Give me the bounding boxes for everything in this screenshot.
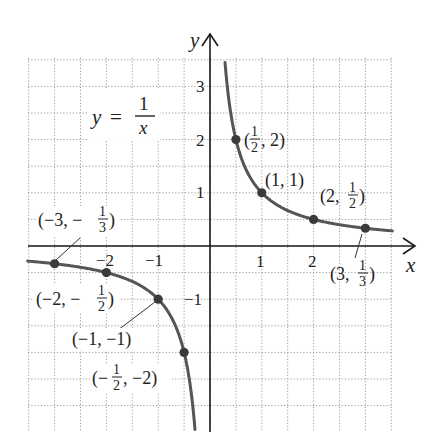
point-label-2-half: (2, 1 2 ) (320, 180, 365, 211)
point-label-neg3-negthird: (−3, − 1 3 ) (36, 204, 120, 236)
svg-text:(: ( (244, 130, 250, 151)
svg-text:1: 1 (98, 283, 105, 298)
svg-text:, 2): , 2) (261, 130, 285, 151)
svg-text:3: 3 (359, 274, 366, 289)
x-tick-neg1: −1 (145, 251, 163, 270)
equation-label: y = 1 x (88, 88, 160, 140)
y-tick-3: 3 (196, 77, 205, 96)
svg-text:2: 2 (98, 299, 105, 314)
x-tick-labels: −2 −1 1 2 (96, 251, 317, 271)
svg-text:, −2): , −2) (123, 368, 157, 389)
equation-equals: = (110, 105, 122, 129)
point-label-neghalf-neg2: (− 1 2 , −2) (90, 362, 172, 394)
equation-numerator: 1 (139, 93, 149, 114)
equation-lhs: y (90, 105, 102, 129)
svg-text:(2,: (2, (320, 186, 340, 207)
svg-text:1: 1 (359, 258, 366, 273)
x-axis-label: x (405, 253, 416, 277)
x-tick-2: 2 (308, 252, 317, 271)
svg-text:(3,: (3, (330, 264, 350, 285)
point-label-1-1: (1, 1) (265, 170, 304, 191)
svg-text:): ) (109, 210, 115, 231)
svg-text:(−1, −1): (−1, −1) (72, 329, 131, 350)
y-tick-1: 1 (196, 183, 205, 202)
y-tick-neg1: −1 (184, 290, 202, 309)
x-tick-1: 1 (256, 252, 265, 271)
svg-text:1: 1 (349, 180, 356, 195)
data-point (154, 295, 163, 304)
leader-line-neg3 (56, 238, 80, 260)
svg-text:(−2, −: (−2, − (36, 289, 80, 310)
svg-text:3: 3 (99, 220, 106, 235)
svg-text:(−3, −: (−3, − (38, 210, 82, 231)
equation-denominator: x (138, 117, 148, 138)
point-label-3-third: (3, 1 3 ) (330, 258, 375, 289)
svg-text:1: 1 (99, 204, 106, 219)
point-label-half-2: ( 1 2 , 2) (244, 124, 285, 155)
x-tick-neg2: −2 (96, 251, 114, 270)
svg-text:1: 1 (113, 362, 120, 377)
data-point (309, 215, 318, 224)
reciprocal-function-graph: y = 1 x x y −2 −1 1 2 3 2 1 −1 ( 1 2 (0, 0, 438, 440)
data-point (102, 268, 111, 277)
data-point (231, 135, 240, 144)
leader-line-neg1 (118, 302, 155, 330)
y-tick-2: 2 (196, 131, 205, 150)
point-label-neg2-neghalf: (−2, − 1 2 ) (34, 283, 120, 314)
data-point (361, 224, 370, 233)
svg-text:): ) (359, 186, 365, 207)
svg-text:2: 2 (349, 196, 356, 211)
svg-text:(−: (− (92, 368, 108, 389)
y-axis-label: y (188, 28, 200, 52)
svg-text:2: 2 (251, 140, 258, 155)
data-point (50, 259, 59, 268)
svg-text:): ) (108, 289, 114, 310)
data-point (180, 348, 189, 357)
svg-text:2: 2 (113, 378, 120, 393)
point-label-neg1-neg1: (−1, −1) (70, 328, 152, 350)
svg-text:): ) (369, 264, 375, 285)
svg-text:1: 1 (251, 124, 258, 139)
y-tick-labels: 3 2 1 −1 (184, 77, 205, 309)
